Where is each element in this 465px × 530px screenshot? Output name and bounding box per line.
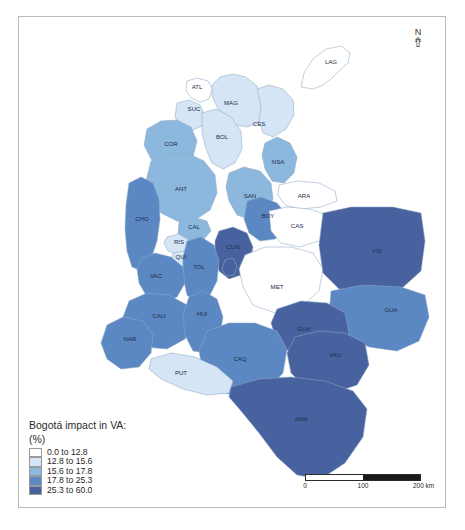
regions-layer[interactable] <box>101 46 429 479</box>
scale-tick: 0 <box>303 482 307 489</box>
scale-segment <box>306 475 335 480</box>
north-arrow-icon: ⇮ <box>405 37 431 49</box>
scale-bar-segments <box>305 474 421 481</box>
scale-segment <box>335 475 364 480</box>
region-ATL[interactable] <box>186 78 212 102</box>
region-AMA[interactable] <box>229 377 367 479</box>
legend-label: 25.3 to 60.0 <box>47 486 92 495</box>
legend-swatch <box>29 486 42 495</box>
legend-swatch <box>29 457 42 466</box>
map-page: LAGATLMAGCESSUCBOLCORNSAANTSANCHOBOYARAC… <box>0 0 465 530</box>
legend-swatch <box>29 476 42 485</box>
scale-tick: 100 <box>358 482 369 489</box>
legend-swatch <box>29 448 42 457</box>
scale-segment <box>363 475 392 480</box>
legend-rows: 0.0 to 12.812.8 to 15.615.6 to 17.817.8 … <box>29 448 244 495</box>
map-frame: LAGATLMAGCESSUCBOLCORNSAANTSANCHOBOYARAC… <box>18 16 446 508</box>
region-CES[interactable] <box>257 85 294 137</box>
region-NSA[interactable] <box>262 137 297 183</box>
scale-tick: 200 km <box>413 482 434 489</box>
legend-subtitle: (%) <box>29 432 244 446</box>
region-NAR[interactable] <box>101 317 153 369</box>
scale-bar-ticks: 0100200 km <box>305 481 421 493</box>
region-LAG[interactable] <box>301 46 350 89</box>
scale-bar: 0100200 km <box>305 474 431 493</box>
region-ARA[interactable] <box>278 181 337 209</box>
legend-title: Bogotá impact in VA: <box>29 418 244 432</box>
scale-segment <box>392 475 421 480</box>
legend-swatch <box>29 467 42 476</box>
region-VID[interactable] <box>319 207 425 293</box>
legend: Bogotá impact in VA: (%) 0.0 to 12.812.8… <box>29 418 244 495</box>
legend-row: 25.3 to 60.0 <box>29 486 244 495</box>
north-arrow: N ⇮ <box>405 27 431 49</box>
